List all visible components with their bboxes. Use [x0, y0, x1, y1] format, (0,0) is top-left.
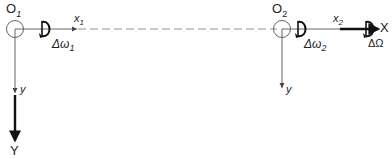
x1-label: x1 — [74, 13, 84, 27]
y2-label: y — [286, 84, 292, 95]
X-label: X — [380, 21, 389, 34]
delta-omega-2-label: Δω2 — [304, 38, 326, 53]
x2-label: x2 — [333, 13, 343, 27]
y1-label: y — [20, 84, 26, 95]
origin-1-label: O1 — [6, 2, 21, 19]
Y-label: Y — [10, 144, 19, 157]
coordinate-frames-diagram: O1 x1 Δω1 y Y O2 x2 Δω2 y X ΔΩ — [0, 0, 392, 159]
delta-Omega-label: ΔΩ — [368, 38, 384, 49]
delta-omega-1-label: Δω1 — [52, 38, 74, 53]
origin-2-label: O2 — [272, 2, 287, 19]
